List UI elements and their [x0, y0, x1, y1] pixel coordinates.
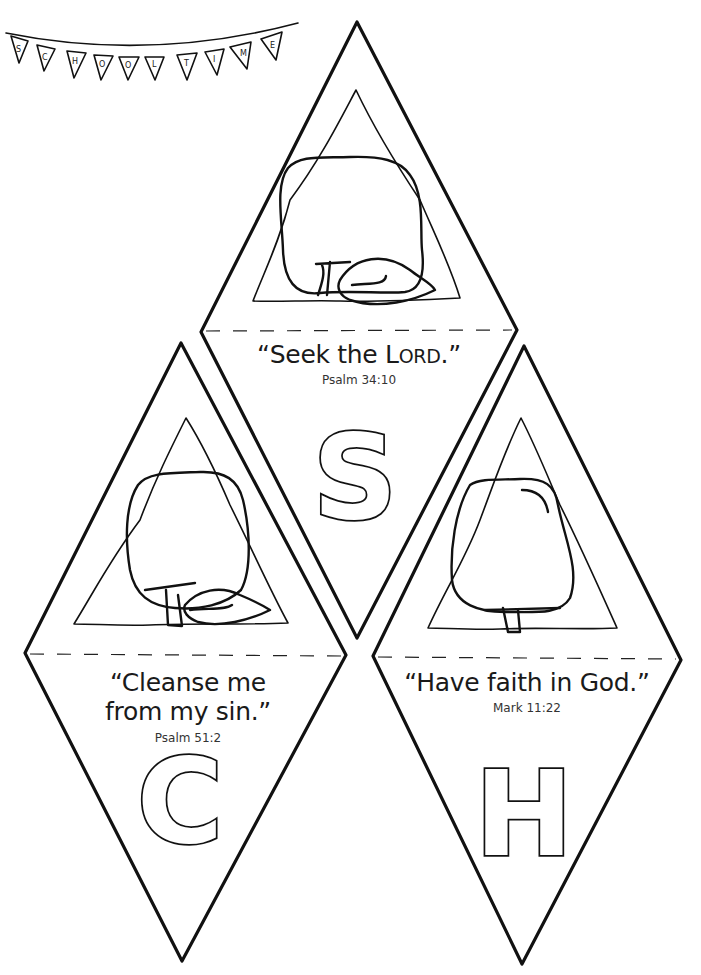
coloring-page-artwork: S C H O O L T I M E S [0, 0, 701, 975]
bunting-letter: I [213, 55, 215, 64]
apple-stem-icon [316, 262, 350, 295]
verse-text-c-line2: from my sin.” [30, 697, 346, 727]
fold-line [30, 654, 341, 656]
verse-reference-s: Psalm 34:10 [200, 373, 518, 387]
bunting-letter: C [42, 53, 48, 62]
bunting-letter: S [16, 45, 21, 54]
bunting-letter: T [183, 59, 189, 68]
pennant-h: H [373, 346, 681, 964]
apple-body-icon [127, 472, 249, 608]
bunting-letter: O [99, 60, 105, 69]
apple-body-icon [280, 157, 423, 294]
background-triangle-icon [253, 90, 460, 301]
bunting-string [6, 23, 298, 45]
pennant-c: C [25, 343, 346, 961]
pennant-letter-s: S [313, 408, 398, 546]
bunting-letter: M [240, 49, 247, 58]
apple-illustration [74, 418, 288, 626]
verse-text-s: “Seek the LORD.” [200, 340, 518, 371]
verse-text-end: .” [441, 340, 461, 369]
verse-text-h: “Have faith in God.” [373, 668, 681, 698]
verse-reference-c: Psalm 51:2 [30, 731, 346, 745]
bunting-letter: L [152, 60, 157, 69]
fold-line [206, 330, 512, 331]
verse-text-part: “Seek the [257, 340, 385, 369]
background-triangle-icon [74, 418, 288, 625]
verse-text-smallcaps: ORD [399, 345, 441, 367]
bunting-letter: O [125, 61, 131, 70]
pennant-letter-c: C [137, 732, 224, 870]
bunting-letter: H [72, 57, 78, 66]
bunting-letter: E [270, 41, 275, 50]
verse-text-c-line1: “Cleanse me [30, 668, 346, 698]
fold-line [378, 657, 676, 659]
pennant-letter-h: H [475, 745, 574, 883]
verse-text-smallcaps-initial: L [385, 340, 399, 369]
apple-stem-icon [145, 583, 195, 626]
apple-illustration [253, 90, 460, 304]
verse-reference-h: Mark 11:22 [373, 701, 681, 715]
bunting-banner: S C H O O L T I M E [6, 23, 298, 80]
